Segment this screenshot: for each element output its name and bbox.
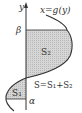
beta-label: β [15, 25, 21, 35]
formula-label: S=S₁+S₂ [34, 80, 73, 90]
curve-label: x=g(y) [40, 5, 71, 15]
area-diagram: y x=g(y) β α S₂ S₁ S=S₁+S₂ [0, 0, 82, 113]
region-s2-label: S₂ [41, 47, 51, 57]
region-s1-label: S₁ [12, 88, 22, 98]
axis-label-y: y [18, 2, 25, 12]
alpha-label: α [29, 96, 35, 106]
y-axis-arrow-icon [24, 2, 28, 8]
